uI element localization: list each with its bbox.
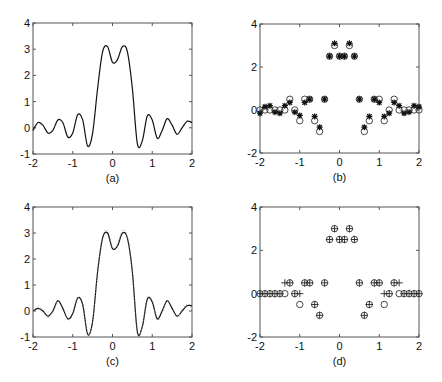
star-marker bbox=[371, 96, 377, 102]
star-marker bbox=[391, 99, 397, 105]
x-tick-label: -1 bbox=[295, 156, 305, 168]
y-tick-label: -1 bbox=[20, 331, 30, 343]
y-tick-label: 0 bbox=[24, 122, 30, 134]
x-tick-label: 2 bbox=[416, 156, 422, 168]
y-tick-label: 4 bbox=[251, 18, 257, 30]
x-tick-label: 0 bbox=[336, 156, 342, 168]
circle-marker bbox=[297, 118, 303, 124]
panel-c: -2-1012-101234(c) bbox=[20, 201, 195, 367]
y-tick-label: -2 bbox=[247, 331, 257, 343]
panel-caption: (b) bbox=[333, 171, 346, 183]
star-marker bbox=[272, 109, 278, 115]
x-tick-label: -1 bbox=[68, 340, 78, 352]
circle-marker bbox=[381, 301, 387, 307]
y-tick-label: 4 bbox=[24, 201, 30, 213]
y-tick-label: 4 bbox=[251, 201, 257, 213]
series-estimate bbox=[257, 40, 422, 130]
star-marker bbox=[277, 110, 283, 116]
series-reference bbox=[33, 230, 192, 336]
panel-d: -2-1012-2024(d) bbox=[247, 201, 422, 367]
panel-caption: (d) bbox=[333, 355, 346, 367]
y-tick-label: 3 bbox=[24, 43, 30, 55]
star-marker bbox=[262, 104, 268, 110]
y-tick-label: 4 bbox=[24, 17, 30, 29]
star-marker bbox=[356, 96, 362, 102]
y-tick-label: 3 bbox=[24, 227, 30, 239]
x-tick-label: 1 bbox=[376, 156, 382, 168]
x-tick-label: 2 bbox=[189, 157, 195, 169]
y-tick-label: 1 bbox=[24, 279, 30, 291]
star-marker bbox=[376, 99, 382, 105]
x-tick-label: -1 bbox=[295, 340, 305, 352]
star-marker bbox=[312, 113, 318, 119]
y-tick-label: 2 bbox=[24, 69, 30, 81]
y-tick-label: 0 bbox=[24, 305, 30, 317]
star-marker bbox=[322, 96, 328, 102]
series-quantized bbox=[256, 225, 422, 319]
star-marker bbox=[366, 113, 372, 119]
axes-box bbox=[260, 207, 419, 337]
panel-b: -2-1012-2024(b) bbox=[247, 18, 422, 183]
star-marker bbox=[341, 53, 347, 59]
x-tick-label: 1 bbox=[149, 157, 155, 169]
x-tick-label: 1 bbox=[376, 340, 382, 352]
star-marker bbox=[297, 112, 303, 118]
star-marker bbox=[267, 103, 273, 109]
x-tick-label: 2 bbox=[416, 340, 422, 352]
star-marker bbox=[302, 99, 308, 105]
y-tick-label: 0 bbox=[251, 104, 257, 116]
star-marker bbox=[381, 113, 387, 119]
y-tick-label: 2 bbox=[251, 61, 257, 73]
y-tick-label: 0 bbox=[251, 288, 257, 300]
y-tick-label: -2 bbox=[247, 147, 257, 159]
y-tick-label: 2 bbox=[251, 244, 257, 256]
star-marker bbox=[346, 40, 352, 46]
star-marker bbox=[257, 110, 263, 116]
x-tick-label: 0 bbox=[336, 340, 342, 352]
star-marker bbox=[292, 109, 298, 115]
star-marker bbox=[307, 96, 313, 102]
y-tick-label: -1 bbox=[20, 148, 30, 160]
star-marker bbox=[332, 40, 338, 46]
x-tick-label: 0 bbox=[109, 157, 115, 169]
star-marker bbox=[386, 110, 392, 116]
series-signal bbox=[33, 46, 192, 148]
star-marker bbox=[411, 103, 417, 109]
star-marker bbox=[416, 104, 422, 110]
star-marker bbox=[282, 103, 288, 109]
star-marker bbox=[327, 53, 333, 59]
x-tick-label: 0 bbox=[109, 340, 115, 352]
y-tick-label: 2 bbox=[24, 253, 30, 265]
panel-caption: (c) bbox=[106, 355, 119, 367]
star-marker bbox=[317, 124, 323, 130]
x-tick-label: 2 bbox=[189, 340, 195, 352]
x-tick-label: -1 bbox=[68, 157, 78, 169]
figure: -2-1012-101234(a)-2-1012-2024(b)-2-1012-… bbox=[0, 0, 442, 382]
axes-box bbox=[33, 23, 192, 154]
star-marker bbox=[351, 53, 357, 59]
axes-box bbox=[33, 207, 192, 337]
panel-a: -2-1012-101234(a) bbox=[20, 17, 195, 184]
star-marker bbox=[406, 109, 412, 115]
y-tick-label: 1 bbox=[24, 96, 30, 108]
axes-box bbox=[260, 24, 419, 153]
circle-marker bbox=[297, 301, 303, 307]
x-tick-label: 1 bbox=[149, 340, 155, 352]
star-marker bbox=[401, 110, 407, 116]
star-marker bbox=[361, 124, 367, 130]
star-marker bbox=[287, 99, 293, 105]
panel-caption: (a) bbox=[106, 172, 119, 184]
star-marker bbox=[396, 103, 402, 109]
